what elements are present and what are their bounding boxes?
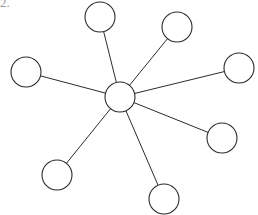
graph-node-node-top[interactable] (85, 2, 115, 32)
diagram-canvas: 2. (0, 0, 258, 215)
graph-node-node-right[interactable] (224, 53, 254, 83)
graph-node-node-top-right[interactable] (162, 12, 192, 42)
edge-layer (40, 31, 225, 186)
graph-edge-center-node-to-node-bottom (126, 110, 159, 185)
graph-node-node-bottom[interactable] (149, 184, 179, 214)
graph-edge-center-node-to-node-top-right (129, 38, 168, 86)
graph-node-node-lower-left[interactable] (42, 160, 72, 190)
graph-edge-center-node-to-node-top (104, 31, 117, 83)
node-layer (11, 2, 254, 214)
graph-node-hub[interactable] (105, 82, 135, 112)
graph-node-node-left[interactable] (11, 57, 41, 87)
graph-edge-center-node-to-node-lower-right (133, 102, 208, 132)
graph-edge-center-node-to-node-right (134, 71, 225, 93)
graph-edge-center-node-to-node-left (40, 76, 106, 94)
graph-node-node-lower-right[interactable] (207, 123, 237, 153)
graph-edge-center-node-to-node-lower-left (66, 108, 111, 163)
star-network-graph (0, 0, 258, 215)
